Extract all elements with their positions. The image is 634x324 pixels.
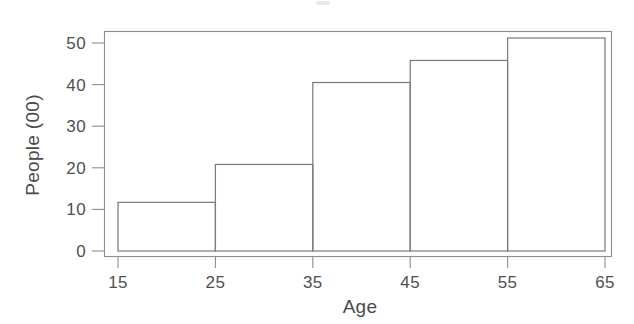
x-tick-label-65: 65: [595, 273, 615, 292]
y-axis-title: People (00): [22, 94, 43, 196]
x-axis-ticks: [118, 257, 605, 269]
y-tick-label-20: 20: [66, 159, 86, 178]
plot-frame: [105, 32, 612, 257]
x-tick-label-35: 35: [303, 273, 323, 292]
histogram-bars: [118, 38, 605, 251]
histogram-plot: 0 10 20 30 40 50 15 25 35 45 55 65 Age P…: [0, 0, 634, 324]
y-tick-label-10: 10: [66, 200, 86, 219]
histogram-bar: [313, 83, 410, 251]
histogram-bar: [215, 164, 312, 251]
x-tick-label-15: 15: [108, 273, 128, 292]
y-tick-label-50: 50: [66, 34, 86, 53]
y-axis-ticks: [92, 43, 104, 251]
histogram-figure: 0 10 20 30 40 50 15 25 35 45 55 65 Age P…: [0, 0, 634, 324]
y-tick-label-40: 40: [66, 76, 86, 95]
x-tick-label-45: 45: [400, 273, 420, 292]
x-tick-label-25: 25: [206, 273, 226, 292]
x-axis-title: Age: [343, 296, 378, 317]
histogram-bar: [118, 202, 215, 251]
histogram-bar: [410, 60, 507, 251]
histogram-bar: [508, 38, 605, 251]
y-tick-label-0: 0: [76, 242, 86, 261]
x-tick-label-55: 55: [498, 273, 518, 292]
y-tick-label-30: 30: [66, 117, 86, 136]
